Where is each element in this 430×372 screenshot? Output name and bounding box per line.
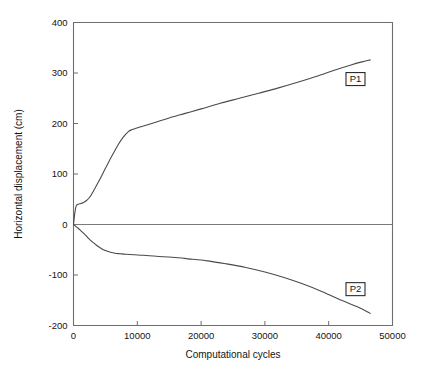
x-tick-label: 10000	[124, 330, 150, 341]
series-label-text: P1	[350, 73, 362, 84]
series-line-p1	[74, 60, 371, 225]
y-tick-label: -200	[48, 320, 67, 331]
x-tick-label: 40000	[315, 330, 341, 341]
series-line-p2	[74, 225, 371, 314]
y-tick-label: 200	[52, 118, 68, 129]
chart-container: -200-10001002003004000100002000030000400…	[0, 0, 430, 372]
x-tick-label: 20000	[188, 330, 214, 341]
series-annotation-p1: P1	[346, 73, 365, 86]
x-tick-label: 50000	[379, 330, 405, 341]
chart-layer: -200-10001002003004000100002000030000400…	[13, 17, 406, 360]
line-chart: -200-10001002003004000100002000030000400…	[0, 0, 430, 372]
x-axis-title: Computational cycles	[185, 349, 280, 360]
y-tick-label: 100	[52, 168, 68, 179]
y-tick-label: 400	[52, 17, 68, 28]
series-annotation-p2: P2	[346, 283, 365, 296]
y-tick-label: 0	[62, 219, 67, 230]
y-axis-title: Horizontal displacement (cm)	[13, 109, 24, 239]
y-tick-label: -100	[48, 269, 67, 280]
series-label-text: P2	[350, 283, 362, 294]
x-tick-label: 30000	[252, 330, 278, 341]
x-tick-label: 0	[71, 330, 76, 341]
plot-frame	[74, 23, 393, 326]
y-tick-label: 300	[52, 67, 68, 78]
